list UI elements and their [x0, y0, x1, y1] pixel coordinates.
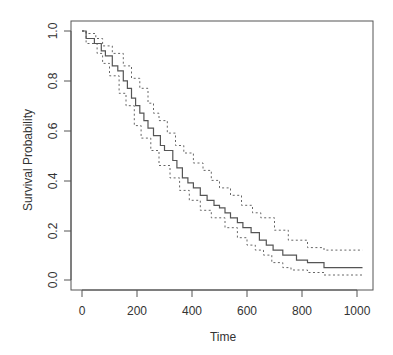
y-tick-label: 0.6	[46, 122, 60, 139]
y-axis-title: Survival Probability	[21, 109, 35, 211]
x-tick-label: 600	[237, 304, 257, 318]
y-tick-label: 0.8	[46, 72, 60, 89]
x-axis: 0 200 400 600 800 1000 Time	[79, 290, 371, 344]
y-axis: 0.0 0.2 0.4 0.6 0.8 1.0 Survival Probabi…	[21, 22, 71, 288]
survival-curve	[82, 31, 363, 268]
lower-ci-curve	[82, 31, 363, 275]
y-tick-label: 1.0	[46, 22, 60, 39]
survival-chart: 0 200 400 600 800 1000 Time 0.0 0.2 0.4 …	[0, 0, 393, 355]
x-tick-label: 0	[79, 304, 86, 318]
y-tick-label: 0.2	[46, 222, 60, 239]
x-tick-label: 800	[292, 304, 312, 318]
x-tick-label: 400	[182, 304, 202, 318]
upper-ci-curve	[82, 31, 363, 250]
x-tick-label: 1000	[344, 304, 371, 318]
x-axis-title: Time	[210, 330, 237, 344]
y-tick-label: 0.0	[46, 271, 60, 288]
y-tick-label: 0.4	[46, 172, 60, 189]
x-tick-label: 200	[127, 304, 147, 318]
